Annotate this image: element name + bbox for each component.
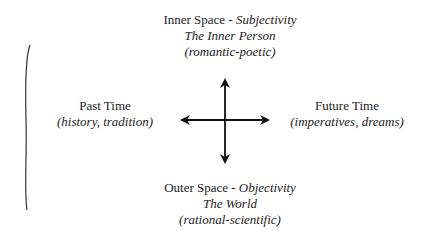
outer-space-label: Outer Space - Objectivity The World (rat…	[120, 180, 340, 228]
past-time-title: Past Time	[40, 98, 170, 114]
inner-space-title: Inner Space -	[163, 12, 236, 27]
subjectivity-label: Subjectivity	[236, 12, 297, 27]
past-time-label: Past Time (history, tradition)	[40, 98, 170, 130]
romantic-poetic-label: (romantic-poetic)	[120, 44, 340, 60]
future-time-title: Future Time	[272, 98, 422, 114]
outer-space-title: Outer Space -	[164, 180, 239, 195]
past-time-subtitle: (history, tradition)	[40, 114, 170, 130]
objectivity-label: Objectivity	[239, 180, 296, 195]
world-label: The World	[120, 196, 340, 212]
future-time-label: Future Time (imperatives, dreams)	[272, 98, 422, 130]
inner-space-label: Inner Space - Subjectivity The Inner Per…	[120, 12, 340, 60]
bracket-line	[26, 45, 30, 210]
rational-scientific-label: (rational-scientific)	[120, 212, 340, 228]
future-time-subtitle: (imperatives, dreams)	[272, 114, 422, 130]
inner-person-label: The Inner Person	[120, 28, 340, 44]
